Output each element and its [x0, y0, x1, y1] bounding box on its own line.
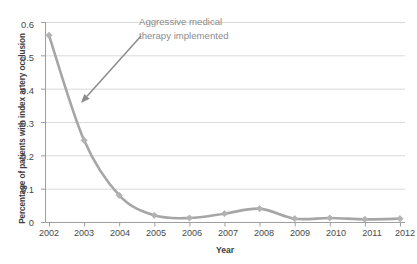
data-point-marker — [362, 216, 368, 222]
x-axis-title: Year — [45, 245, 405, 255]
data-point-marker — [151, 212, 157, 218]
y-tick-label: 0.6 — [4, 19, 34, 30]
y-tick-label: 0.1 — [4, 184, 34, 195]
data-point-marker — [292, 216, 298, 222]
data-point-marker — [397, 216, 403, 222]
annotation-arrow — [81, 36, 141, 103]
x-tick-label: 2012 — [383, 228, 417, 238]
data-line — [49, 35, 400, 219]
annotation-label: Aggressive medical therapy implemented — [139, 15, 229, 42]
y-tick-label: 0.2 — [4, 151, 34, 162]
gridlines — [46, 23, 406, 190]
data-point-marker — [327, 215, 333, 221]
y-tick-label: 0 — [4, 217, 34, 228]
data-point-marker — [186, 215, 192, 221]
data-point-marker — [257, 206, 263, 212]
y-tick-label: 0.3 — [4, 118, 34, 129]
data-point-marker — [46, 32, 52, 38]
y-tick-marks — [41, 23, 46, 223]
data-point-marker — [221, 211, 227, 217]
y-tick-label: 0.5 — [4, 52, 34, 63]
x-tick-marks — [50, 223, 401, 227]
annotation-arrow-shaft — [87, 36, 141, 96]
y-tick-label: 0.4 — [4, 85, 34, 96]
line-chart: Aggressive medical therapy implemented P… — [0, 0, 417, 264]
data-markers — [46, 32, 403, 222]
